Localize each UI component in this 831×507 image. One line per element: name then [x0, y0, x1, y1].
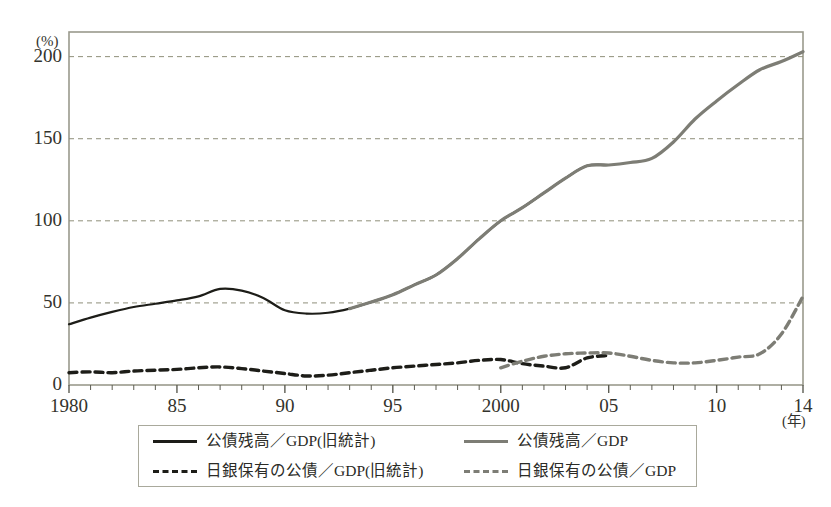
legend-swatch-solid-dark	[153, 440, 197, 443]
legend-item-3: 日銀保有の公債／GDP	[454, 463, 698, 479]
legend-item-0: 公債残高／GDP(旧統計)	[139, 433, 454, 449]
x-tick-label: 05	[564, 395, 654, 417]
legend-label-0: 公債残高／GDP(旧統計)	[206, 433, 375, 449]
gridlines	[69, 57, 803, 303]
chart-figure: (%) (年) 050100150200 1980859095200005101…	[0, 0, 831, 507]
legend-item-2: 日銀保有の公債／GDP(旧統計)	[139, 463, 454, 479]
legend-label-3: 日銀保有の公債／GDP	[517, 463, 676, 479]
x-tick-label: 95	[348, 395, 438, 417]
plot-frame	[69, 32, 803, 385]
series-line	[350, 52, 803, 309]
legend-swatch-solid-gray	[464, 440, 508, 443]
y-tick-label: 100	[10, 209, 62, 231]
y-tick-label: 50	[10, 291, 62, 313]
x-tick-label: 90	[240, 395, 330, 417]
x-tick-label: 85	[132, 395, 222, 417]
x-tick-label: 1980	[24, 395, 114, 417]
legend-swatch-dashed-gray	[464, 470, 508, 473]
y-tick-label: 150	[10, 127, 62, 149]
x-tick-label: 2000	[456, 395, 546, 417]
legend-swatch-dashed-dark	[153, 470, 197, 473]
y-tick-label: 200	[10, 45, 62, 67]
series-layer	[69, 52, 803, 376]
legend-label-2: 日銀保有の公債／GDP(旧統計)	[206, 463, 423, 479]
y-tick-label: 0	[10, 373, 62, 395]
chart-legend: 公債残高／GDP(旧統計) 公債残高／GDP 日銀保有の公債／GDP(旧統計) …	[138, 425, 697, 487]
series-line	[69, 165, 609, 325]
x-axis-ticks	[69, 385, 803, 393]
legend-label-1: 公債残高／GDP	[517, 433, 628, 449]
legend-item-1: 公債残高／GDP	[454, 433, 698, 449]
series-line	[501, 296, 803, 367]
x-tick-label: 14	[758, 395, 831, 417]
x-tick-label: 10	[672, 395, 762, 417]
